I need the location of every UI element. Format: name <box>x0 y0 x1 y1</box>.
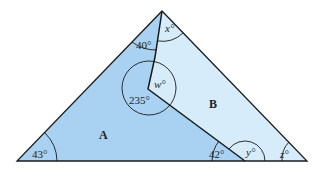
angle-label-y: y° <box>245 146 256 158</box>
angle-label-z: z° <box>279 148 289 160</box>
angle-label-w: w° <box>154 78 166 90</box>
region-label-b: B <box>209 97 217 111</box>
angle-label-x: x° <box>164 22 175 34</box>
angle-label-235: 235° <box>129 94 150 106</box>
angle-label-40: 40° <box>136 39 151 51</box>
region-label-a: A <box>99 128 108 142</box>
angle-label-43: 43° <box>32 148 47 160</box>
angle-label-42: 42° <box>209 148 224 160</box>
triangle-diagram: 40° x° w° 235° 43° 42° y° z° A B <box>0 0 322 173</box>
